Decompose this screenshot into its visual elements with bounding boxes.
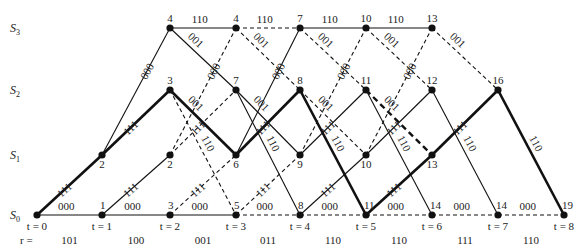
time-label: t = 2 (160, 220, 180, 232)
path-metric: 14 (430, 199, 442, 211)
trellis-branch (236, 90, 300, 215)
trellis-node (362, 86, 369, 93)
state-labels: S0S1S2S3 (10, 21, 20, 224)
path-metric: 13 (427, 12, 439, 24)
state-label-s1: S1 (10, 148, 20, 164)
trellis-node (428, 211, 435, 218)
trellis-branch (236, 28, 300, 155)
path-metric: 2 (167, 158, 173, 170)
edges-layer (37, 28, 564, 215)
path-metric: 7 (233, 74, 239, 86)
branch-output-label: 000 (400, 61, 418, 82)
state-label-s3: S3 (10, 21, 20, 37)
path-metric: 5 (234, 199, 240, 211)
received-symbol: 110 (325, 234, 342, 246)
path-metric: 13 (427, 158, 439, 170)
time-label: t = 7 (488, 220, 509, 232)
time-label: t = 3 (226, 220, 247, 232)
branch-output-label: 111 (253, 180, 273, 199)
branch-output-label: 001 (186, 30, 206, 50)
trellis-node (232, 86, 239, 93)
path-metric: 19 (562, 199, 574, 211)
branch-output-label: 110 (322, 13, 339, 25)
trellis-node (296, 211, 303, 218)
received-symbol: 110 (523, 234, 540, 246)
state-label-s2: S2 (10, 83, 20, 99)
path-metric: 9 (297, 158, 303, 170)
branch-output-label: 001 (382, 30, 402, 50)
time-label: t = 1 (92, 220, 112, 232)
time-label: t = 8 (554, 220, 575, 232)
trellis-node (232, 211, 239, 218)
branch-output-label: 001 (316, 93, 336, 113)
branch-output-label: 000 (191, 200, 208, 212)
trellis-node (166, 211, 173, 218)
path-metric: 6 (233, 158, 239, 170)
trellis-diagram: 0001110001111110000001111110001100010011… (0, 0, 580, 252)
branch-output-label: 000 (519, 200, 536, 212)
trellis-branch (170, 90, 236, 215)
received-symbol: 111 (457, 234, 473, 246)
received-symbol: 011 (260, 234, 276, 246)
trellis-node (362, 24, 369, 31)
branch-output-label: 110 (388, 13, 405, 25)
path-metric: 11 (361, 74, 372, 86)
trellis-node (296, 86, 303, 93)
branch-output-label: 000 (138, 61, 157, 82)
trellis-node (232, 24, 239, 31)
branch-output-label: 001 (252, 93, 272, 113)
path-metric: 16 (493, 74, 505, 86)
trellis-node (428, 86, 435, 93)
branch-output-label: 000 (387, 200, 404, 212)
path-metric: 7 (297, 12, 303, 24)
trellis-node (362, 211, 369, 218)
received-symbol: 001 (195, 234, 212, 246)
nodes-layer: 123234567489871110111014131213141619 (33, 12, 573, 219)
branch-output-label: 000 (269, 61, 287, 82)
path-metric: 3 (167, 74, 173, 86)
path-metric: 12 (427, 74, 438, 86)
trellis-branch (300, 90, 366, 215)
trellis-node (494, 86, 501, 93)
trellis-node (494, 211, 501, 218)
trellis-node (428, 24, 435, 31)
trellis-node (98, 211, 105, 218)
edge-labels-layer: 0001110001111110000001111110001100010011… (54, 13, 545, 212)
time-labels: t = 0t = 1t = 2t = 3t = 4t = 5t = 6t = 7… (27, 220, 575, 232)
trellis-branch (498, 90, 564, 215)
branch-output-label: 110 (192, 13, 209, 25)
received-sequence: r =101100001011110110111110 (20, 234, 540, 246)
branch-output-label: 000 (453, 200, 470, 212)
path-metric: 10 (361, 158, 373, 170)
branch-output-label: 001 (382, 93, 402, 113)
received-prefix: r = (20, 234, 33, 246)
branch-output-label: 000 (204, 61, 222, 82)
trellis-node (33, 211, 40, 218)
path-metric: 2 (99, 158, 105, 170)
received-symbol: 110 (391, 234, 408, 246)
branch-output-label: 000 (124, 200, 141, 212)
time-label: t = 5 (356, 220, 377, 232)
branch-output-label: 000 (58, 200, 75, 212)
path-metric: 11 (364, 199, 375, 211)
trellis-node (296, 24, 303, 31)
time-label: t = 4 (290, 220, 311, 232)
branch-output-label: 110 (257, 13, 274, 25)
branch-output-label: 000 (321, 200, 338, 212)
branch-output-label: 110 (199, 133, 217, 153)
trellis-node (560, 211, 567, 218)
received-symbol: 101 (61, 234, 78, 246)
time-label: t = 6 (422, 220, 443, 232)
path-metric: 4 (233, 12, 239, 24)
path-metric: 8 (298, 199, 304, 211)
trellis-branch (366, 90, 432, 215)
trellis-branch (102, 28, 170, 155)
path-metric: 14 (496, 199, 508, 211)
trellis-branch (432, 90, 498, 215)
branch-output-label: 001 (251, 30, 271, 50)
branch-output-label: 000 (334, 61, 352, 82)
path-metric: 3 (168, 199, 174, 211)
path-metric: 1 (100, 199, 106, 211)
branch-output-label: 111 (188, 180, 208, 199)
path-metric: 10 (361, 12, 373, 24)
